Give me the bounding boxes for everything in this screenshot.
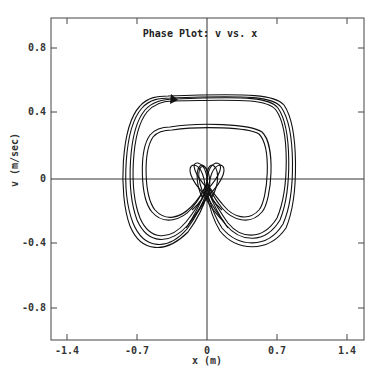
x-tick-label: 1.4 <box>338 345 356 356</box>
y-axis-label: v (m/sec) <box>9 133 20 187</box>
x-tick-label: -1.4 <box>55 345 79 356</box>
phase-plot: -1.4 -0.7 0 0.7 1.4 x (m) 0.8 0.4 0 -0.4… <box>0 0 377 373</box>
trajectory <box>123 95 296 248</box>
y-tick-label: -0.4 <box>22 237 46 248</box>
y-tick-label: -0.8 <box>22 302 46 313</box>
x-tick-label: -0.7 <box>125 345 149 356</box>
y-tick-label: 0 <box>40 173 46 184</box>
x-tick-label: 0.7 <box>268 345 286 356</box>
chart-title: Phase Plot: v vs. x <box>143 28 257 39</box>
y-tick-label: 0.4 <box>28 106 46 117</box>
y-tick-label: 0.8 <box>28 42 46 53</box>
x-axis-label: x (m) <box>192 355 222 366</box>
